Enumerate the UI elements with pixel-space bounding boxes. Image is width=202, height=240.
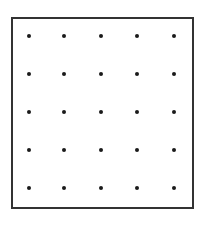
grid-dot xyxy=(99,186,103,190)
grid-dot xyxy=(27,110,31,114)
grid-dot xyxy=(172,148,176,152)
grid-dot xyxy=(27,72,31,76)
grid-dot xyxy=(62,148,66,152)
grid-dot xyxy=(172,72,176,76)
grid-dot xyxy=(135,72,139,76)
grid-dot xyxy=(172,110,176,114)
grid-dot xyxy=(27,148,31,152)
grid-dot xyxy=(62,186,66,190)
grid-dot xyxy=(62,72,66,76)
grid-dot xyxy=(62,110,66,114)
grid-dot xyxy=(27,34,31,38)
grid-dot xyxy=(135,34,139,38)
grid-dot xyxy=(172,34,176,38)
grid-dot xyxy=(62,34,66,38)
grid-dot xyxy=(172,186,176,190)
grid-dot xyxy=(135,186,139,190)
grid-dot xyxy=(99,72,103,76)
grid-dot xyxy=(99,148,103,152)
grid-dot xyxy=(135,148,139,152)
grid-dot xyxy=(99,34,103,38)
grid-dot xyxy=(135,110,139,114)
grid-dot xyxy=(27,186,31,190)
grid-dot xyxy=(99,110,103,114)
